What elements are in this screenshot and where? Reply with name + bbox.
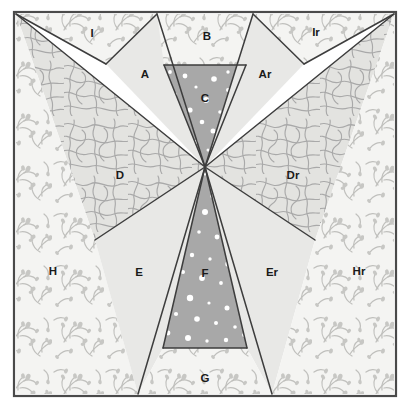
pattern-dot bbox=[183, 74, 188, 79]
pattern-dot bbox=[187, 295, 193, 301]
pattern-dot bbox=[224, 338, 228, 342]
pattern-dot bbox=[197, 230, 201, 234]
pattern-dot bbox=[215, 235, 220, 240]
pattern-dot bbox=[207, 149, 210, 152]
pattern-dot bbox=[219, 281, 223, 285]
pattern-dot bbox=[211, 76, 217, 82]
pattern-dot bbox=[168, 70, 172, 74]
pattern-dot bbox=[185, 335, 191, 341]
pattern-dot bbox=[211, 129, 216, 134]
region-fill-group bbox=[16, 14, 394, 394]
pattern-dot bbox=[203, 97, 209, 103]
pattern-dot bbox=[200, 120, 205, 125]
pattern-dot bbox=[205, 339, 208, 342]
pinwheel-region-svg: IABCArIrDDrHEFErHrG bbox=[0, 0, 411, 410]
region-b bbox=[157, 14, 253, 65]
pattern-dot bbox=[190, 253, 194, 257]
pattern-dot bbox=[207, 301, 210, 304]
pattern-dot bbox=[226, 70, 229, 73]
pattern-dot bbox=[225, 306, 230, 311]
pattern-dot bbox=[194, 85, 197, 88]
diagram-canvas: IABCArIrDDrHEFErHrG bbox=[0, 0, 411, 410]
pattern-dot bbox=[208, 257, 211, 260]
pattern-dot bbox=[199, 275, 205, 281]
pattern-dot bbox=[202, 209, 208, 215]
pattern-dot bbox=[233, 325, 237, 329]
pattern-dot bbox=[174, 312, 178, 316]
pattern-dot bbox=[194, 316, 200, 322]
pattern-dot bbox=[214, 321, 218, 325]
